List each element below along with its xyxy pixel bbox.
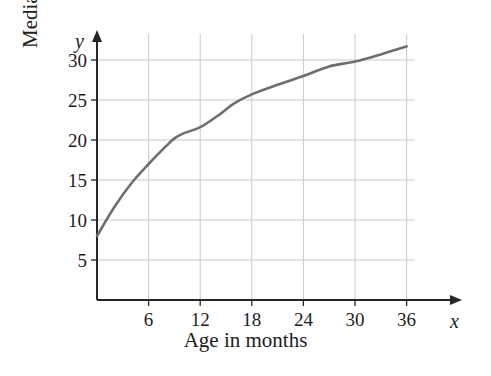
x-tick-label: 18 bbox=[242, 310, 261, 329]
y-axis-title: Median weight in pounds bbox=[16, 0, 44, 66]
x-tick-label: 6 bbox=[144, 310, 154, 329]
y-axis-arrowhead bbox=[92, 30, 102, 42]
x-tick-label: 30 bbox=[346, 310, 365, 329]
y-axis-variable-label: y bbox=[75, 31, 84, 51]
y-tick-label: 15 bbox=[49, 171, 87, 190]
y-tick-label: 10 bbox=[49, 211, 87, 230]
x-tick-label: 36 bbox=[397, 310, 416, 329]
y-tick-label: 20 bbox=[49, 131, 87, 150]
x-axis-arrowhead bbox=[450, 295, 462, 305]
horizontal-gridlines bbox=[97, 60, 415, 260]
y-axis-title-text: Median weight in pounds bbox=[16, 0, 44, 66]
y-tick-label: 25 bbox=[49, 91, 87, 110]
x-axis-variable-label: x bbox=[450, 311, 459, 331]
x-tick-label: 12 bbox=[191, 310, 210, 329]
y-tick-label: 30 bbox=[49, 51, 87, 70]
chart-figure: 51015202530 61218243036 y x Age in month… bbox=[0, 0, 491, 376]
x-tick-label: 24 bbox=[294, 310, 313, 329]
x-axis-title: Age in months bbox=[0, 330, 491, 351]
y-tick-label: 5 bbox=[49, 251, 87, 270]
